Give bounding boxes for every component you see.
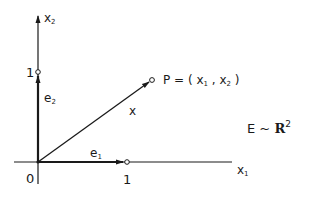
e2-label-subscript: 2 (51, 98, 55, 106)
point-p-coord2: x (219, 73, 226, 87)
origin-label: 0 (26, 172, 34, 185)
x2-axis-label-subscript: 2 (51, 18, 55, 26)
point-p-prefix: P = ( (163, 73, 196, 87)
x1-unit-tick-icon (125, 160, 130, 165)
x2-unit-tick-icon (36, 70, 41, 75)
x2-unit-label: 1 (26, 66, 34, 79)
point-p-suffix: ) (231, 73, 240, 87)
x1-axis-label: x1 (237, 164, 249, 178)
point-p-marker-icon (150, 78, 155, 83)
vector-x-label: x (129, 105, 136, 117)
point-p-coord1: x (196, 73, 203, 87)
x2-axis-label: x2 (44, 12, 56, 26)
origin-dot-icon (36, 160, 39, 163)
e2-label: e2 (44, 92, 56, 106)
x1-unit-label: 1 (123, 173, 131, 186)
point-p-separator: , (208, 73, 219, 87)
space-label-real-set: R (274, 121, 285, 136)
point-p-label: P = ( x1 , x2 ) (163, 74, 240, 88)
e1-label-subscript: 1 (97, 153, 101, 161)
space-label: E ~ R2 (247, 120, 291, 135)
space-label-lhs: E (247, 121, 255, 136)
x1-axis-label-subscript: 1 (244, 170, 248, 178)
e1-label: e1 (90, 147, 102, 161)
space-label-exponent: 2 (285, 119, 291, 129)
space-label-relation: ~ (255, 121, 274, 136)
